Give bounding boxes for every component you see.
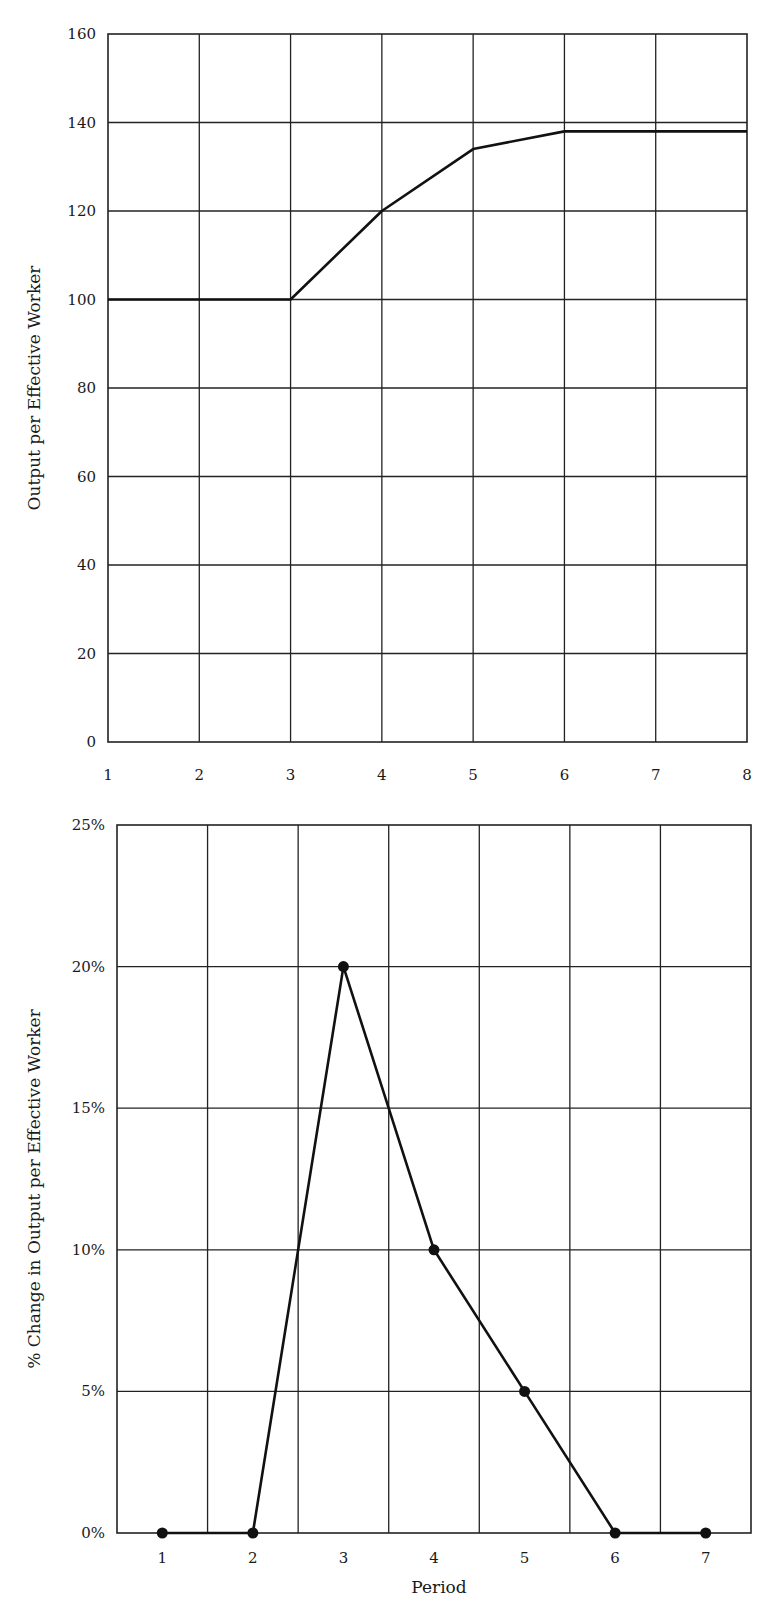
data-point-marker [247,1528,258,1539]
y-tick-label: 60 [77,468,96,486]
data-point-marker [519,1386,530,1397]
y-tick-label: 120 [67,202,96,220]
y-tick-label: 100 [67,291,96,309]
data-point-marker [338,961,349,972]
data-point-marker [157,1528,168,1539]
x-tick-label: 6 [560,766,570,784]
plot-frame [117,825,751,1533]
data-point-marker [610,1528,621,1539]
x-tick-label: 3 [286,766,296,784]
y-axis-title: % Change in Output per Effective Worker [24,1008,44,1368]
x-tick-label: 2 [248,1549,258,1567]
x-tick-label: 1 [158,1549,168,1567]
x-tick-label: 8 [742,766,752,784]
percent-change-chart: 0%5%10%15%20%25%1234567Period% Change in… [24,816,751,1597]
y-tick-label: 80 [77,379,96,397]
y-tick-label: 10% [72,1241,105,1259]
x-tick-label: 5 [468,766,478,784]
x-tick-label: 6 [610,1549,620,1567]
y-axis-title: Output per Effective Worker [24,265,44,511]
y-tick-label: 40 [77,556,96,574]
output-per-worker-chart: 02040608010012014016012345678Output per … [24,25,752,784]
x-tick-label: 3 [339,1549,349,1567]
x-tick-label: 7 [701,1549,711,1567]
data-point-marker [700,1528,711,1539]
y-tick-label: 0 [86,733,96,751]
y-tick-label: 0% [81,1524,105,1542]
data-line [108,131,747,299]
y-tick-label: 160 [67,25,96,43]
y-tick-label: 140 [67,114,96,132]
x-axis-title: Period [411,1577,467,1597]
y-tick-label: 20% [72,958,105,976]
data-point-marker [429,1244,440,1255]
x-tick-label: 1 [103,766,113,784]
x-tick-label: 5 [520,1549,530,1567]
x-tick-label: 4 [377,766,387,784]
x-tick-label: 4 [429,1549,439,1567]
y-tick-label: 25% [72,816,105,834]
figure: 02040608010012014016012345678Output per … [0,0,780,1609]
x-tick-label: 7 [651,766,661,784]
y-tick-label: 15% [72,1099,105,1117]
x-tick-label: 2 [195,766,205,784]
y-tick-label: 20 [77,645,96,663]
y-tick-label: 5% [81,1382,105,1400]
